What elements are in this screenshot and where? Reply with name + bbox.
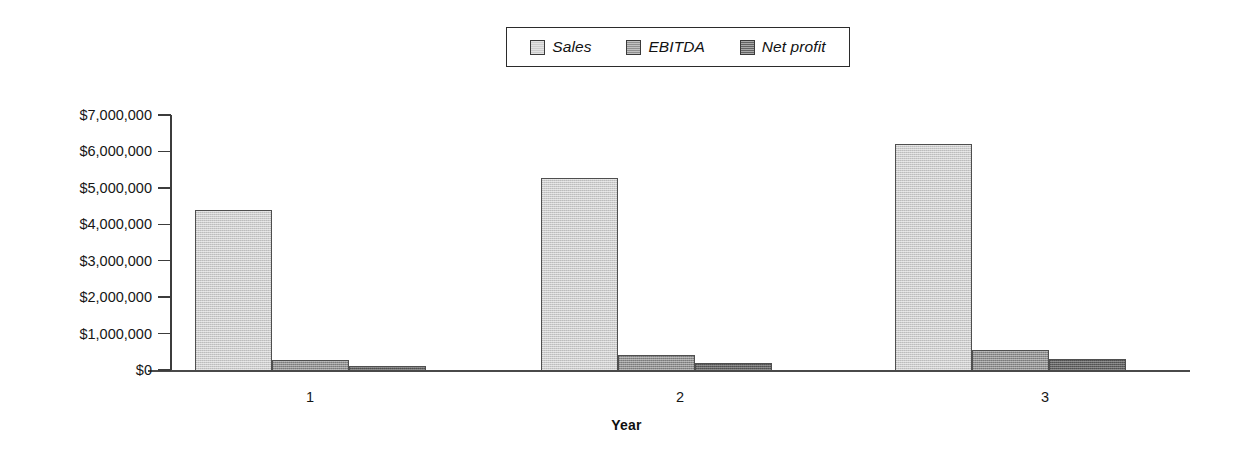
bars-layer: [0, 0, 1253, 461]
x-axis-title: Year: [0, 417, 1253, 433]
bar-net-profit-year-1: [349, 366, 426, 370]
y-axis-tick: [158, 369, 171, 370]
y-axis-tick: [158, 187, 171, 188]
x-axis-category-label-1: 1: [306, 389, 314, 405]
plot-area: $0$1,000,000$2,000,000$3,000,000$4,000,0…: [0, 0, 1253, 461]
x-axis-category-label-2: 2: [676, 389, 684, 405]
bar-ebitda-year-3: [972, 350, 1049, 370]
y-axis-tick: [158, 224, 171, 225]
bar-sales-year-2: [541, 178, 618, 370]
bar-ebitda-year-1: [272, 360, 349, 370]
bar-sales-year-1: [195, 210, 272, 370]
bar-sales-year-3: [895, 144, 972, 370]
y-axis-tick: [158, 333, 171, 334]
y-axis-tick: [158, 296, 171, 297]
bar-chart: Sales EBITDA Net profit $0$1,000,000$2,0…: [0, 0, 1253, 461]
x-axis-category-label-3: 3: [1041, 389, 1049, 405]
bar-net-profit-year-3: [1049, 359, 1126, 370]
y-axis-tick: [158, 114, 171, 115]
bar-ebitda-year-2: [618, 355, 695, 370]
y-axis-tick: [158, 260, 171, 261]
bar-net-profit-year-2: [695, 363, 772, 370]
y-axis-tick: [158, 151, 171, 152]
